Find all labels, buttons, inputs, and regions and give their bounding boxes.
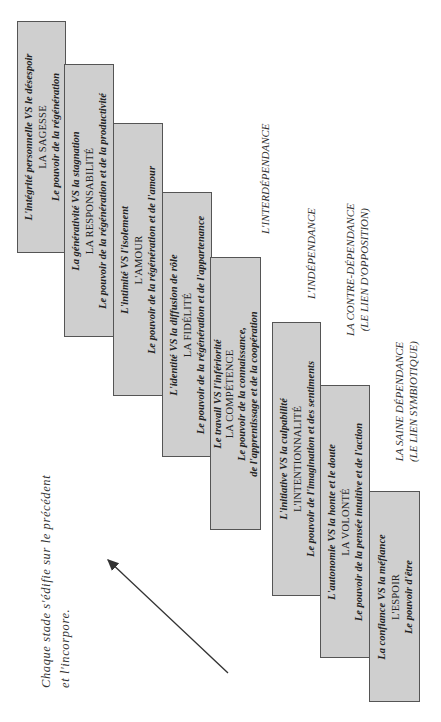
progression-arrow-icon <box>0 0 441 722</box>
